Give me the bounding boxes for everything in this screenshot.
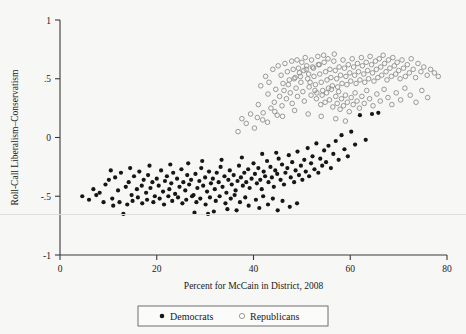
data-point-republican <box>428 67 433 72</box>
republican-points-group <box>236 52 441 134</box>
data-point-democrat <box>304 169 308 173</box>
data-point-republican <box>381 53 386 58</box>
data-point-republican <box>306 72 311 77</box>
x-axis-title: Percent for McCain in District, 2008 <box>184 281 324 291</box>
data-point-republican <box>413 75 418 80</box>
data-point-republican <box>386 58 391 63</box>
data-point-democrat <box>326 144 330 148</box>
data-point-republican <box>349 95 354 100</box>
data-point-republican <box>334 76 339 81</box>
data-point-republican <box>244 121 249 126</box>
data-point-democrat <box>240 155 244 159</box>
data-point-democrat <box>107 178 111 182</box>
data-point-republican <box>317 72 322 77</box>
data-point-republican <box>341 58 346 63</box>
data-point-republican <box>283 61 288 66</box>
data-point-democrat <box>109 168 113 172</box>
data-point-republican <box>411 67 416 72</box>
data-point-democrat <box>148 186 152 190</box>
data-point-republican <box>357 106 362 111</box>
data-point-republican <box>314 96 319 101</box>
data-point-democrat <box>247 204 251 208</box>
data-point-republican <box>365 68 370 73</box>
data-point-democrat <box>130 199 134 203</box>
data-point-republican <box>407 71 412 76</box>
data-point-democrat <box>215 171 219 175</box>
data-point-republican <box>401 66 406 71</box>
data-point-republican <box>347 109 352 114</box>
data-point-democrat <box>203 175 207 179</box>
axis-labels-group: 1.50-.5-1020406080Percent for McCain in … <box>10 16 452 292</box>
data-point-republican <box>293 75 298 80</box>
data-point-democrat <box>331 152 335 156</box>
data-point-democrat <box>276 208 280 212</box>
data-point-republican <box>306 112 311 117</box>
data-point-republican <box>382 61 387 66</box>
data-point-democrat <box>197 179 201 183</box>
legend-label-republicans: Republicans <box>250 311 300 322</box>
data-point-democrat <box>224 191 228 195</box>
data-point-democrat <box>208 195 212 199</box>
data-point-democrat <box>201 184 205 188</box>
x-tick-label: 20 <box>152 264 162 274</box>
data-point-democrat <box>241 184 245 188</box>
data-point-democrat <box>137 169 141 173</box>
data-point-republican <box>395 60 400 65</box>
data-point-republican <box>261 111 266 116</box>
data-point-democrat <box>306 146 310 150</box>
data-point-democrat <box>239 175 243 179</box>
data-point-democrat <box>177 185 181 189</box>
data-point-republican <box>403 74 408 79</box>
data-point-republican <box>332 52 337 57</box>
data-point-republican <box>286 82 291 87</box>
data-point-democrat <box>217 180 221 184</box>
data-point-republican <box>379 73 384 78</box>
data-point-democrat <box>349 130 353 134</box>
data-point-republican <box>333 94 338 99</box>
data-point-democrat <box>145 198 149 202</box>
data-point-republican <box>364 88 369 93</box>
data-point-republican <box>354 81 359 86</box>
data-point-republican <box>419 69 424 74</box>
data-point-democrat <box>168 162 172 166</box>
data-point-republican <box>273 87 278 92</box>
data-point-democrat <box>263 174 267 178</box>
data-point-democrat <box>180 201 184 205</box>
data-point-republican <box>288 91 293 96</box>
data-point-republican <box>386 95 391 100</box>
data-point-democrat <box>98 191 102 195</box>
data-point-democrat <box>157 184 161 188</box>
data-point-democrat <box>339 133 343 137</box>
data-point-republican <box>309 93 314 98</box>
data-point-republican <box>359 55 364 60</box>
data-point-democrat <box>101 200 105 204</box>
y-tick-label: 0 <box>46 133 51 143</box>
y-tick-label: .5 <box>44 74 51 84</box>
data-point-democrat <box>214 199 218 203</box>
data-point-democrat <box>280 162 284 166</box>
data-point-republican <box>390 102 395 107</box>
data-point-democrat <box>166 194 170 198</box>
data-point-republican <box>398 76 403 81</box>
legend-marker-democrats <box>160 314 165 319</box>
data-point-democrat <box>270 175 274 179</box>
data-point-democrat <box>226 178 230 182</box>
data-point-democrat <box>110 197 114 201</box>
data-point-republican <box>414 100 419 105</box>
data-point-republican <box>337 65 342 70</box>
data-point-republican <box>272 100 277 105</box>
data-point-democrat <box>346 154 350 158</box>
data-point-republican <box>240 116 245 121</box>
data-point-republican <box>284 96 289 101</box>
data-point-democrat <box>184 198 188 202</box>
data-point-republican <box>362 80 367 85</box>
data-point-republican <box>356 69 361 74</box>
data-point-democrat <box>155 177 159 181</box>
data-point-democrat <box>307 174 311 178</box>
data-point-democrat <box>290 160 294 164</box>
data-point-democrat <box>312 167 316 171</box>
data-point-republican <box>339 96 344 101</box>
data-point-republican <box>360 64 365 69</box>
data-point-republican <box>277 94 282 99</box>
data-point-democrat <box>200 159 204 163</box>
